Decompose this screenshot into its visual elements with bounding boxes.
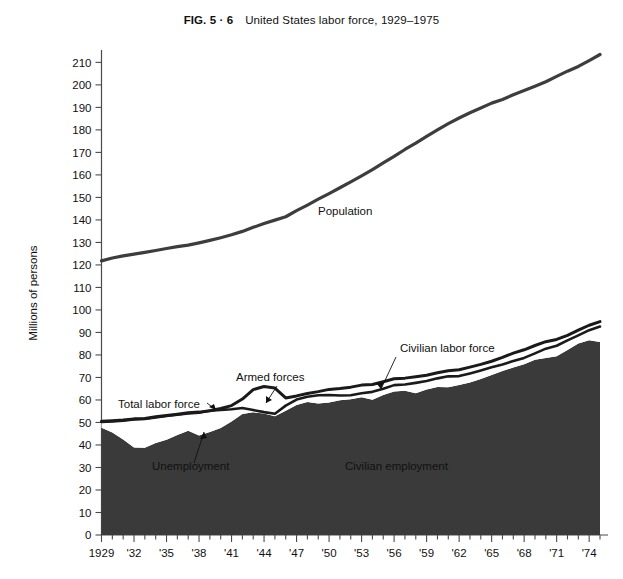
x-tick-label: '74 <box>582 547 598 559</box>
y-tick-label: 10 <box>79 507 92 519</box>
y-tick-label: 100 <box>72 304 91 316</box>
y-tick-label: 170 <box>72 147 91 159</box>
y-axis-ticks: 0102030405060708090100110120130140150160… <box>72 57 101 542</box>
figure-container: FIG. 5 · 6United States labor force, 192… <box>0 0 623 579</box>
x-tick-label: 1929 <box>89 547 115 559</box>
y-tick-label: 160 <box>72 169 91 181</box>
annotation-population: Population <box>318 205 372 217</box>
y-tick-label: 140 <box>72 214 91 226</box>
series-population-line <box>102 55 601 261</box>
y-tick-label: 130 <box>72 237 91 249</box>
y-tick-label: 90 <box>79 327 92 339</box>
y-tick-label: 40 <box>79 439 92 451</box>
annotation-civilian-employment: Civilian employment <box>345 460 449 472</box>
arrowhead-armed-forces <box>266 396 272 403</box>
x-tick-label: '68 <box>517 547 532 559</box>
y-tick-label: 0 <box>85 529 91 541</box>
y-tick-label: 20 <box>79 484 92 496</box>
y-tick-label: 180 <box>72 124 91 136</box>
x-tick-label: '50 <box>322 547 337 559</box>
y-tick-label: 60 <box>79 394 92 406</box>
y-tick-label: 150 <box>72 192 91 204</box>
y-tick-label: 110 <box>73 282 91 294</box>
y-tick-label: 190 <box>72 102 91 114</box>
x-tick-label: '47 <box>289 547 304 559</box>
annotation-armed-forces: Armed forces <box>236 371 305 383</box>
y-tick-label: 50 <box>79 417 92 429</box>
y-tick-label: 200 <box>72 79 91 91</box>
x-tick-label: '35 <box>159 547 174 559</box>
series-civilian-employment-area <box>102 340 601 535</box>
x-tick-label: '71 <box>549 547 564 559</box>
y-tick-label: 30 <box>79 462 92 474</box>
x-tick-label: '44 <box>257 547 273 559</box>
x-tick-label: '65 <box>484 547 499 559</box>
x-tick-label: '32 <box>127 547 142 559</box>
y-tick-label: 120 <box>72 259 91 271</box>
x-tick-label: '56 <box>387 547 402 559</box>
x-tick-label: '38 <box>192 547 207 559</box>
x-axis-ticks: 1929'32'35'38'41'44'47'50'53'56'59'62'65… <box>89 535 600 559</box>
annotation-unemployment: Unemployment <box>152 460 230 472</box>
y-tick-label: 80 <box>79 349 92 361</box>
x-tick-label: '62 <box>452 547 467 559</box>
annotation-total-labor-force: Total labor force <box>118 398 200 410</box>
x-tick-label: '53 <box>354 547 369 559</box>
x-tick-label: '59 <box>419 547 434 559</box>
x-tick-label: '41 <box>224 547 239 559</box>
chart-plot-area: 0102030405060708090100110120130140150160… <box>0 0 623 579</box>
annotation-civilian-labor-force: Civilian labor force <box>400 342 495 354</box>
y-tick-label: 70 <box>79 372 92 384</box>
y-tick-label: 210 <box>72 57 91 69</box>
